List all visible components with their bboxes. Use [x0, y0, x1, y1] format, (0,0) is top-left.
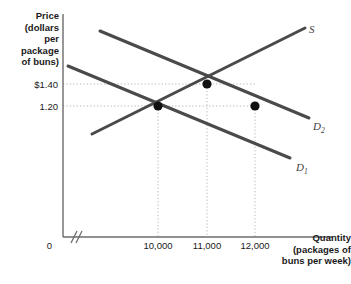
- y-tick-label-140: $1.40: [14, 79, 58, 90]
- point-equilibrium-new: [202, 79, 211, 88]
- supply-demand-chart: Price (dollars per package of buns) Quan…: [0, 0, 351, 284]
- x-tick-label-origin: 0: [30, 240, 52, 251]
- demand-curve-d2-label-text: D: [313, 120, 321, 132]
- demand-curve-d1-label: D1: [296, 161, 308, 176]
- point-quantity-demanded: [250, 101, 259, 110]
- demand-curve-d1-label-sub: 1: [304, 167, 308, 176]
- x-tick-label-10000: 10,000: [132, 240, 184, 251]
- y-axis-title: Price (dollars per package of buns): [0, 10, 59, 68]
- supply-curve-label: S: [309, 23, 315, 35]
- x-tick-label-12000: 12,000: [229, 240, 281, 251]
- supply-curve-label-text: S: [309, 23, 315, 35]
- point-equilibrium-initial: [153, 101, 162, 110]
- demand-curve-d2-label-sub: 2: [321, 126, 325, 135]
- x-tick-label-11000: 11,000: [181, 240, 233, 251]
- demand-curve-d1-label-text: D: [296, 161, 304, 173]
- y-tick-label-120: 1.20: [14, 101, 58, 112]
- demand-curve-d2-label: D2: [313, 120, 325, 135]
